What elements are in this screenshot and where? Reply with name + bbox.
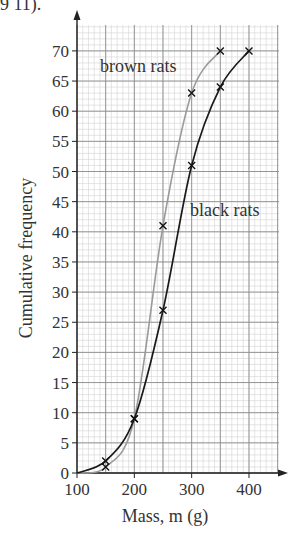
x-tick-label: 100 (64, 480, 90, 499)
x-tick-label: 200 (122, 480, 148, 499)
y-tick-label: 65 (52, 72, 69, 91)
y-tick-label: 45 (52, 193, 69, 212)
x-axis-title: Mass, m (g) (122, 506, 209, 527)
y-tick-label: 40 (52, 223, 69, 242)
y-tick-label: 30 (52, 283, 69, 302)
series-label-brown-rats: brown rats (100, 56, 176, 76)
y-tick-label: 55 (52, 132, 69, 151)
y-axis-title: Cumulative frequency (16, 178, 36, 338)
series-label-black-rats: black rats (190, 200, 259, 220)
x-tick-label: 400 (236, 480, 262, 499)
y-tick-label: 50 (52, 163, 69, 182)
y-tick-label: 10 (52, 404, 69, 423)
y-tick-label: 25 (52, 313, 69, 332)
y-tick-label: 5 (61, 434, 70, 453)
cumulative-frequency-chart: 0510152025303540455055606570100200300400… (0, 0, 289, 536)
y-tick-label: 70 (52, 42, 69, 61)
y-tick-label: 60 (52, 102, 69, 121)
x-tick-label: 300 (179, 480, 205, 499)
y-tick-label: 20 (52, 343, 69, 362)
y-tick-label: 15 (52, 374, 69, 393)
grid-major (77, 25, 279, 473)
y-tick-label: 35 (52, 253, 69, 272)
